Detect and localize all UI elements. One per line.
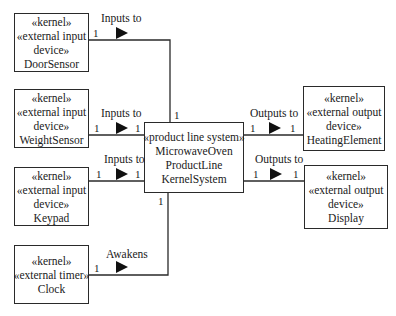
multiplicity: 1 xyxy=(290,123,296,134)
stereotype: device» xyxy=(328,197,364,211)
stereotype: «external output xyxy=(306,105,381,119)
direction-arrow-icon xyxy=(116,27,128,39)
system-name-line: ProductLine xyxy=(166,158,223,172)
stereotype: «external input xyxy=(17,183,86,197)
system-name-line: MicrowaveOven xyxy=(155,144,232,158)
association-label: Inputs to xyxy=(104,153,145,165)
multiplicity: 1 xyxy=(94,263,100,274)
system-box: «product line system» MicrowaveOven Prod… xyxy=(144,122,244,193)
multiplicity: 1 xyxy=(93,28,99,39)
direction-arrow-icon xyxy=(270,168,282,180)
multiplicity: 1 xyxy=(253,169,259,180)
direction-arrow-icon xyxy=(116,122,128,134)
stereotype: «external input xyxy=(17,29,86,43)
stereotype: «kernel» xyxy=(31,254,71,268)
multiplicity: 1 xyxy=(293,169,299,180)
multiplicity: 1 xyxy=(158,196,164,207)
stereotype: «kernel» xyxy=(31,15,71,29)
actor-name: Clock xyxy=(38,282,65,296)
multiplicity: 1 xyxy=(135,169,141,180)
stereotype: «kernel» xyxy=(31,169,71,183)
stereotype: device» xyxy=(34,43,70,57)
actor-name: HeatingElement xyxy=(307,133,382,147)
actor-weight-sensor: «kernel» «external input device» WeightS… xyxy=(14,89,89,148)
system-name-line: KernelSystem xyxy=(161,172,226,186)
multiplicity: 1 xyxy=(94,123,100,134)
actor-name: Keypad xyxy=(34,211,70,225)
multiplicity: 1 xyxy=(174,110,180,121)
multiplicity: 1 xyxy=(250,123,256,134)
stereotype: «external timer» xyxy=(14,268,90,282)
association-label: Inputs to xyxy=(101,12,142,24)
association-label: Outputs to xyxy=(255,153,303,165)
association-label: Awakens xyxy=(106,248,148,260)
stereotype: «kernel» xyxy=(31,91,71,105)
stereotype: «kernel» xyxy=(326,169,366,183)
stereotype: «external output xyxy=(308,183,383,197)
actor-clock: «kernel» «external timer» Clock xyxy=(14,245,89,304)
system-stereotype: «product line system» xyxy=(143,130,245,144)
multiplicity: 1 xyxy=(96,169,102,180)
actor-name: DoorSensor xyxy=(24,57,79,71)
actor-display: «kernel» «external output device» Displa… xyxy=(304,165,388,229)
stereotype: «kernel» xyxy=(324,91,364,105)
association-label: Inputs to xyxy=(101,107,142,119)
actor-door-sensor: «kernel» «external input device» DoorSen… xyxy=(14,13,89,72)
multiplicity: 1 xyxy=(135,123,141,134)
association-label: Outputs to xyxy=(250,107,298,119)
direction-arrow-icon xyxy=(116,168,128,180)
actor-name: WeightSensor xyxy=(19,133,83,147)
actor-heating-element: «kernel» «external output device» Heatin… xyxy=(303,86,385,151)
direction-arrow-icon xyxy=(269,122,281,134)
actor-name: Display xyxy=(328,211,364,225)
stereotype: device» xyxy=(34,197,70,211)
stereotype: device» xyxy=(326,119,362,133)
actor-keypad: «kernel» «external input device» Keypad xyxy=(14,167,89,226)
direction-arrow-icon xyxy=(116,261,128,273)
stereotype: «external input xyxy=(17,105,86,119)
stereotype: device» xyxy=(34,119,70,133)
